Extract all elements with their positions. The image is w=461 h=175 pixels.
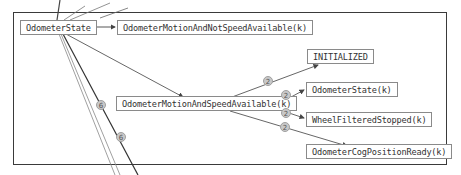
edge-badge-wheel-filtered-stopped: 2 — [281, 108, 291, 118]
node-odometer-state[interactable]: OdometerState — [20, 20, 97, 35]
node-odometer-state-k[interactable]: OdometerState(k) — [306, 82, 398, 97]
edge-badge-side-2: 6 — [116, 132, 126, 142]
node-motion-speed-available[interactable]: OdometerMotionAndSpeedAvailable(k) — [116, 96, 297, 111]
edge-badge-odometer-state-k: 2 — [281, 90, 291, 100]
edge-badge-cog-position-ready: 2 — [280, 122, 290, 132]
edge-badge-initialized: 2 — [263, 76, 273, 86]
node-wheel-filtered-stopped[interactable]: WheelFilteredStopped(k) — [306, 112, 432, 127]
edge-badge-side-1: 6 — [96, 100, 106, 110]
node-initialized[interactable]: INITIALIZED — [307, 49, 374, 64]
node-cog-position-ready[interactable]: OdometerCogPositionReady(k) — [306, 144, 452, 159]
node-motion-not-speed-available[interactable]: OdometerMotionAndNotSpeedAvailable(k) — [117, 20, 313, 35]
